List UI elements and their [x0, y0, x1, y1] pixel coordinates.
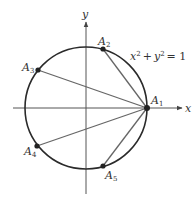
point-a4	[34, 143, 39, 148]
label-a3: A3	[21, 61, 34, 75]
label-a2: A2	[97, 35, 110, 49]
point-a5	[100, 163, 105, 168]
diagram-canvas: x y A1 A2 A3 A4 A5 x2+y2= 1	[0, 0, 195, 198]
label-a5: A5	[104, 169, 117, 183]
x-axis-label: x	[185, 102, 192, 115]
point-a1	[144, 105, 150, 111]
chord-a1-a4	[37, 108, 147, 146]
y-axis-label: y	[81, 8, 89, 21]
unit-circle-diagram: x y A1 A2 A3 A4 A5 x2+y2= 1	[0, 0, 195, 198]
label-a1: A1	[150, 94, 163, 108]
chord-a1-a3	[38, 70, 147, 108]
equation-label: x2+y2= 1	[130, 50, 186, 63]
point-a3	[35, 67, 40, 72]
